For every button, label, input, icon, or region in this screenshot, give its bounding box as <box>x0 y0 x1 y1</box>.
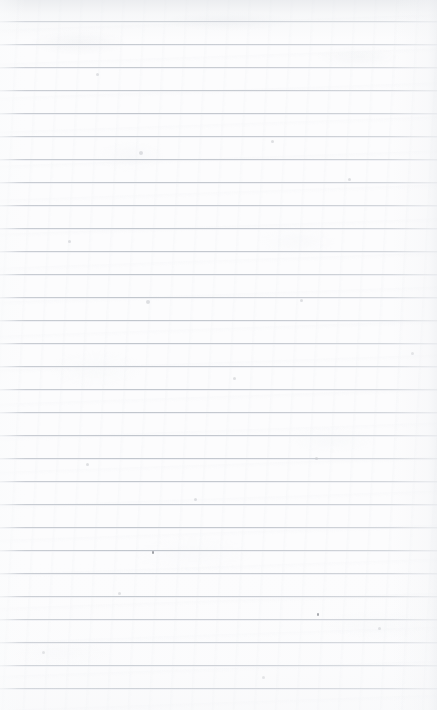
soft-speck-n <box>378 627 381 630</box>
soft-speck-k <box>315 457 318 460</box>
soft-speck-j <box>86 463 89 466</box>
soft-speck-b <box>271 140 274 143</box>
soft-speck-c <box>139 151 143 155</box>
soft-speck-m <box>118 592 121 595</box>
soft-speck-g <box>300 299 303 302</box>
soft-speck-a <box>96 73 99 76</box>
soft-speck-l <box>194 498 197 501</box>
speck-upper-center-left <box>152 551 154 554</box>
soft-speck-d <box>348 178 351 181</box>
speck-lower-right <box>317 613 319 616</box>
soft-speck-i <box>411 352 414 355</box>
soft-speck-o <box>42 651 45 654</box>
paper-background <box>0 0 437 710</box>
soft-speck-e <box>68 240 71 243</box>
scanned-paper-page <box>0 0 437 710</box>
soft-speck-f <box>146 300 150 304</box>
soft-speck-h <box>233 377 236 380</box>
soft-speck-p <box>262 676 265 679</box>
